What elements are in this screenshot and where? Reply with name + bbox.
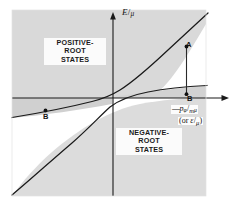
x-axis-alternate-denominator: μ [196, 119, 199, 126]
figure-container: POSITIVE- ROOT STATES NEGATIVE- ROOT STA… [0, 0, 233, 210]
x-axis-arrowhead [222, 95, 230, 101]
positive-root-shaded-region [12, 10, 206, 98]
x-axis-alternate-prefix: (or [179, 116, 188, 125]
x-axis-label-primary: —pφ/mμ [171, 105, 198, 114]
figure-canvas [0, 0, 233, 210]
y-axis-label: E/μ [122, 7, 134, 16]
point-label-a: A [186, 41, 191, 49]
region-label-positive-root-states: POSITIVE- ROOT STATES [44, 38, 106, 65]
y-axis-label-denominator: μ [130, 9, 134, 18]
y-axis-label-numerator: E [122, 7, 128, 17]
x-axis-alternate-suffix: ) [199, 116, 202, 125]
point-label-b-left: B [43, 113, 48, 121]
point-label-b-right: B [187, 95, 192, 103]
region-label-negative-root-states: NEGATIVE- ROOT STATES [116, 128, 182, 155]
x-axis-label-denominator-subscript: μ [194, 107, 197, 113]
x-axis-label-alternate: (or ε/μ) [178, 117, 203, 125]
x-axis-label-lead-dash: — [172, 104, 180, 113]
x-axis-label-denominator: m [189, 107, 194, 114]
